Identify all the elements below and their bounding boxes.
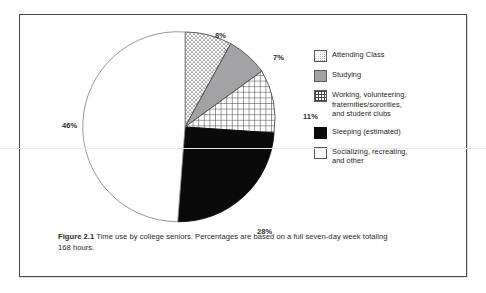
pie-slice-sleeping[interactable] bbox=[178, 127, 274, 222]
legend-label-socializing-other: Socializing, recreating, and other bbox=[332, 147, 408, 166]
legend-item-working-volunteering[interactable]: Working, volunteering, fraternities/soro… bbox=[314, 90, 464, 119]
figure-caption-text: Time use by college seniors. Percentages… bbox=[58, 232, 388, 252]
legend-swatch-black-icon bbox=[314, 127, 327, 139]
legend-swatch-white-icon bbox=[314, 147, 327, 159]
legend-item-sleeping[interactable]: Sleeping (estimated) bbox=[314, 127, 464, 139]
legend-item-socializing-other[interactable]: Socializing, recreating, and other bbox=[314, 147, 464, 166]
legend-label-working-volunteering: Working, volunteering, fraternities/soro… bbox=[332, 90, 407, 119]
pie-label-studying: 7% bbox=[273, 53, 284, 62]
figure-frame: 8% 7% 11% 46% 28% Attending Class Studyi… bbox=[19, 14, 467, 277]
pie-slice-socializing-other[interactable] bbox=[83, 32, 185, 222]
figure-caption: Figure 2.1 Time use by college seniors. … bbox=[58, 231, 393, 253]
legend-item-attending-class[interactable]: Attending Class bbox=[314, 50, 464, 62]
legend-label-sleeping: Sleeping (estimated) bbox=[332, 127, 401, 137]
legend-label-attending-class: Attending Class bbox=[332, 50, 385, 60]
legend-swatch-grid-icon bbox=[314, 90, 327, 102]
figure-caption-label: Figure 2.1 bbox=[58, 232, 94, 241]
legend-label-studying: Studying bbox=[332, 70, 361, 80]
pie-label-socializing: 46% bbox=[62, 121, 77, 130]
pie-chart-svg bbox=[75, 19, 295, 234]
pie-chart bbox=[75, 19, 295, 234]
legend-swatch-gray-icon bbox=[314, 70, 327, 82]
chart-area: 8% 7% 11% 46% 28% Attending Class Studyi… bbox=[20, 15, 468, 278]
legend: Attending Class Studying Working, volunt… bbox=[314, 50, 464, 174]
legend-item-studying[interactable]: Studying bbox=[314, 70, 464, 82]
legend-swatch-dots-icon bbox=[314, 50, 327, 62]
figure-root: 8% 7% 11% 46% 28% Attending Class Studyi… bbox=[0, 0, 486, 293]
pie-label-attending-class: 8% bbox=[215, 31, 226, 40]
